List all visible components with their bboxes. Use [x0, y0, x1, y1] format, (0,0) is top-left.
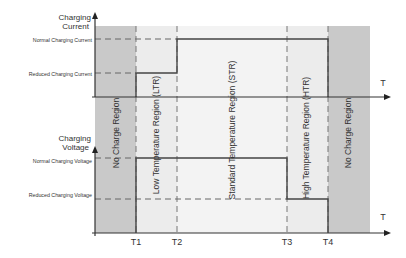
voltage-axis-title-2: Voltage	[62, 143, 89, 152]
normal-voltage-label: Normal Charging Voltage	[33, 158, 92, 164]
region-label-ltr: Low Temperature Region (LTR)	[151, 76, 161, 194]
current-x-axis-label: T	[380, 78, 386, 88]
region-label-no-charge-right: No Charge Region	[343, 98, 353, 169]
current-axis-title-1: Charging	[59, 13, 91, 22]
charging-diagram: Charging Current Normal Charging Current…	[0, 0, 406, 258]
tick-t4: T4	[323, 237, 334, 247]
normal-current-label: Normal Charging Current	[33, 37, 93, 43]
current-y-arrow-icon	[92, 12, 98, 19]
voltage-x-arrow-icon	[384, 230, 391, 236]
voltage-x-axis-label: T	[380, 212, 386, 222]
reduced-voltage-label: Reduced Charging Voltage	[29, 192, 92, 198]
tick-t1: T1	[131, 237, 142, 247]
region-label-htr: High Temperature Region (HTR)	[301, 77, 311, 199]
current-axis-title-2: Current	[62, 22, 89, 31]
region-label-no-charge-left: No Charge Region	[111, 98, 121, 169]
tick-t3: T3	[282, 237, 293, 247]
current-x-arrow-icon	[384, 94, 391, 100]
region-label-str: Standard Temperature Region (STR)	[227, 60, 237, 199]
voltage-axis-title-1: Charging	[59, 134, 91, 143]
tick-t2: T2	[172, 237, 183, 247]
reduced-current-label: Reduced Charging Current	[29, 71, 93, 77]
